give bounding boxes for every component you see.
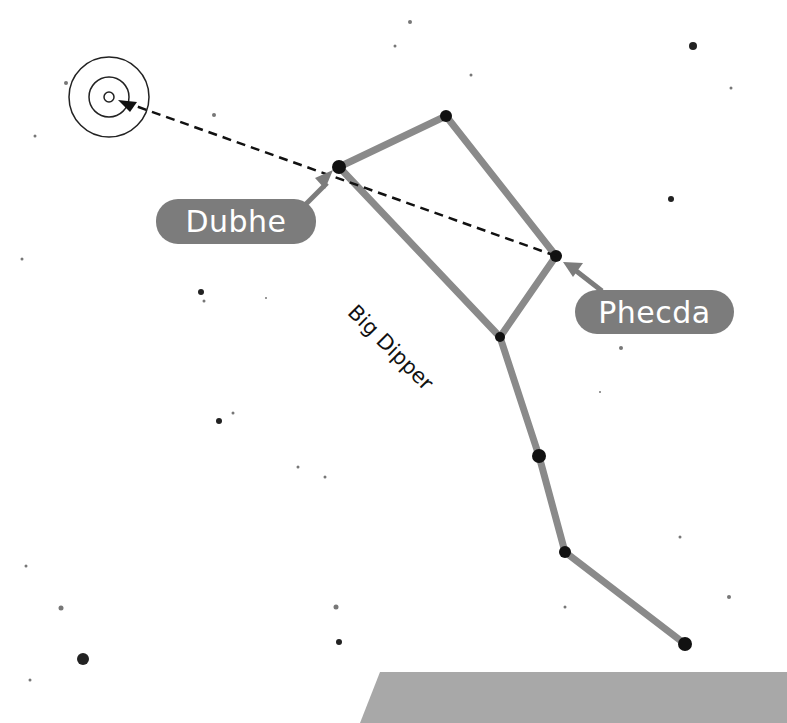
north-star-target-icon [69, 57, 149, 137]
star-alkaid [678, 637, 692, 651]
star-dot [679, 536, 682, 539]
star-dot [334, 605, 339, 610]
arrowhead-icon [118, 100, 137, 112]
star-dot [564, 606, 567, 609]
star-dot [599, 391, 601, 393]
star-dot [668, 196, 674, 202]
star-dot [198, 289, 204, 295]
star-dot [336, 639, 342, 645]
star-megrez [495, 332, 505, 342]
star-dot [470, 74, 473, 77]
star-alioth [532, 449, 546, 463]
star-dot [203, 300, 206, 303]
star-dot [232, 412, 235, 415]
star-dot [619, 346, 623, 350]
star-dot [394, 45, 397, 48]
constellation-lines [339, 116, 685, 644]
star-dot [408, 20, 412, 24]
star-dot [265, 297, 267, 299]
star-dubhe [332, 160, 346, 174]
phecda-label: Phecda [575, 290, 734, 334]
star-dot [730, 87, 733, 90]
dubhe-label: Dubhe [156, 199, 316, 244]
star-dot [21, 258, 24, 261]
star-dot [297, 466, 300, 469]
star-dot [34, 135, 37, 138]
star-dot [77, 653, 89, 665]
star-mizar [559, 546, 571, 558]
star-dot [59, 606, 64, 611]
star-dot [216, 418, 222, 424]
star-dot [29, 679, 32, 682]
ground-horizon [360, 672, 787, 723]
star-dot [727, 595, 731, 599]
star-dot [212, 113, 216, 117]
star-dot [689, 42, 697, 50]
star-dot [324, 476, 327, 479]
star-dot [64, 81, 68, 85]
star-dot [25, 565, 28, 568]
star-merak-top [440, 110, 452, 122]
label-arrows [305, 170, 602, 291]
